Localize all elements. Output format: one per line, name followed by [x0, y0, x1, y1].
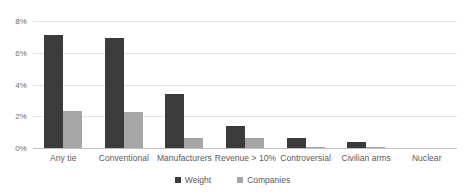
bar-group	[215, 21, 276, 148]
x-tick-label-1: Conventional	[94, 153, 155, 164]
bar-weight[interactable]	[165, 94, 184, 148]
y-tick-label-0: 0%	[15, 144, 27, 153]
bar-companies[interactable]	[306, 147, 325, 148]
bar-group	[154, 21, 215, 148]
bar-companies[interactable]	[366, 147, 385, 148]
bars-layer	[33, 21, 457, 148]
bar-group	[396, 21, 457, 148]
x-tick-label-6: Nuclear	[396, 153, 457, 164]
x-axis-line	[33, 148, 457, 149]
bar-companies[interactable]	[124, 112, 143, 149]
chart-legend: WeightCompanies	[0, 173, 465, 187]
bar-weight[interactable]	[226, 126, 245, 148]
legend-label: Companies	[247, 175, 290, 185]
bar-group	[94, 21, 155, 148]
x-tick-label-4: Controversial	[275, 153, 336, 164]
legend-swatch-icon	[237, 177, 243, 183]
x-tick-label-2: Manufacturers	[154, 153, 215, 164]
legend-swatch-icon	[175, 177, 181, 183]
y-tick-label-1: 2%	[15, 112, 27, 121]
legend-item-companies[interactable]: Companies	[237, 175, 290, 185]
y-tick-label-3: 6%	[15, 48, 27, 57]
bar-group	[275, 21, 336, 148]
legend-label: Weight	[185, 175, 211, 185]
legend-item-weight[interactable]: Weight	[175, 175, 211, 185]
bar-weight[interactable]	[105, 38, 124, 148]
x-tick-label-5: Civilian arms	[336, 153, 397, 164]
x-tick-label-3: Revenue > 10%	[215, 153, 276, 164]
x-tick-label-0: Any tie	[33, 153, 94, 164]
bar-companies[interactable]	[184, 138, 203, 148]
bar-companies[interactable]	[245, 138, 264, 148]
y-tick-label-4: 8%	[15, 17, 27, 26]
bar-chart: 0%2%4%6%8% Any tieConventionalManufactur…	[0, 0, 465, 194]
bar-weight[interactable]	[44, 35, 63, 148]
bar-companies[interactable]	[63, 111, 82, 148]
bar-group	[33, 21, 94, 148]
y-tick-label-2: 4%	[15, 80, 27, 89]
bar-weight[interactable]	[347, 142, 366, 148]
bar-weight[interactable]	[287, 138, 306, 148]
x-axis: Any tieConventionalManufacturersRevenue …	[33, 153, 457, 169]
y-axis: 0%2%4%6%8%	[0, 0, 33, 194]
bar-group	[336, 21, 397, 148]
